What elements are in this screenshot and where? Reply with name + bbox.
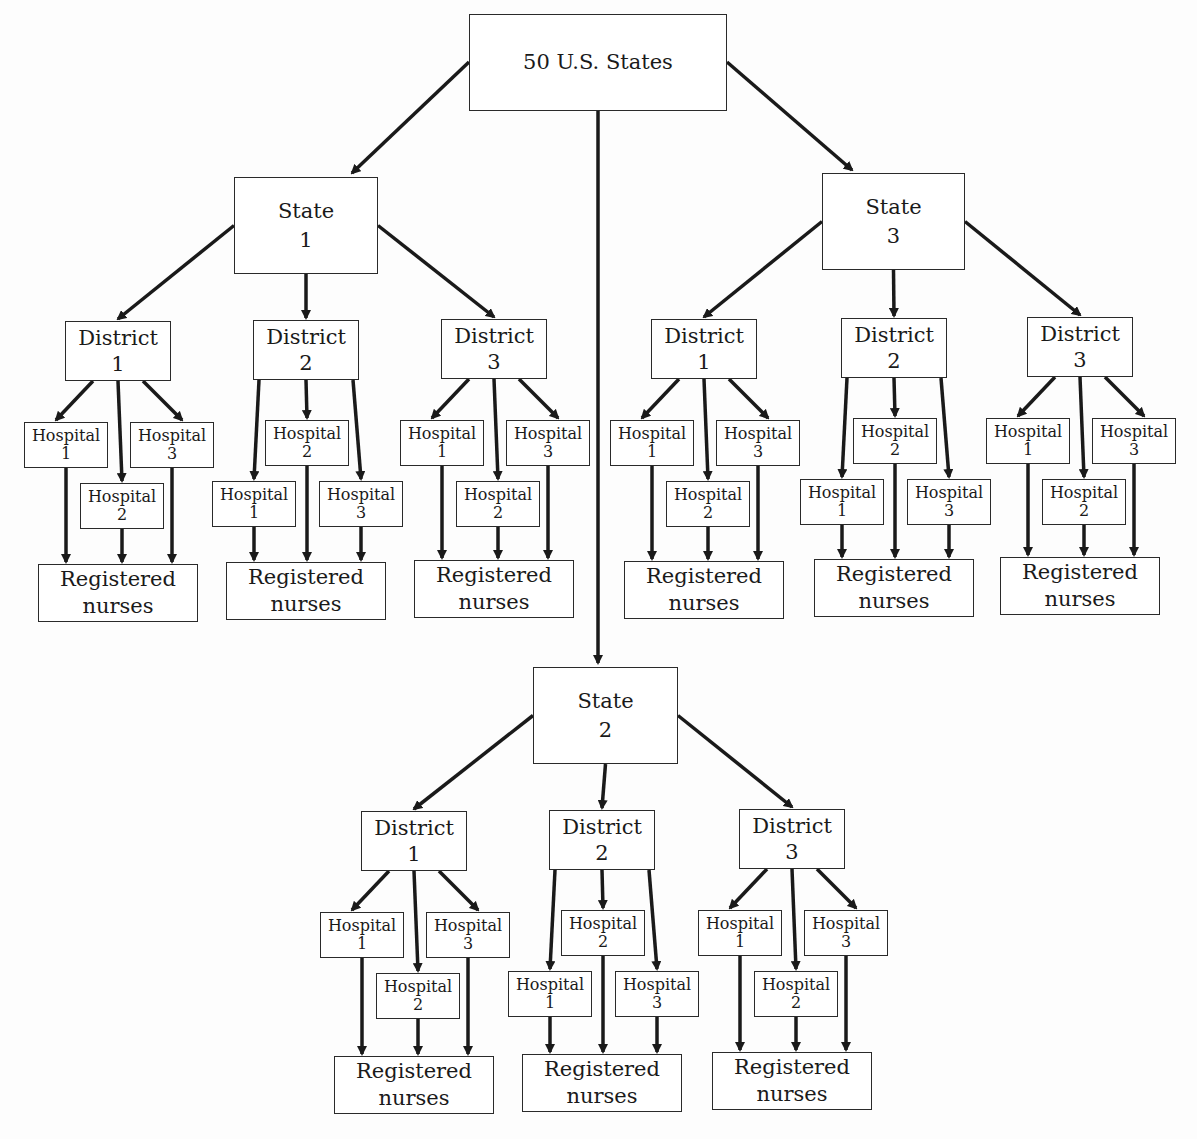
- arrow-connector: [817, 869, 856, 908]
- arrow-connector: [414, 871, 418, 971]
- arrow-connector: [1080, 377, 1084, 477]
- state-3-district-3-registered-nurses-node: Registerednurses: [1000, 557, 1160, 615]
- state-1-district-1-hospital-2-node-line-2: 2: [117, 506, 127, 524]
- state-2-district-1-node-line-2: 1: [407, 841, 420, 867]
- state-2-district-1-registered-nurses-node-line-2: nurses: [378, 1085, 449, 1112]
- state-1-district-3-registered-nurses-node: Registerednurses: [414, 560, 574, 618]
- state-2-district-2-registered-nurses-node: Registerednurses: [522, 1054, 682, 1112]
- arrow-connector: [894, 378, 895, 416]
- state-2-district-3-hospital-2-node-line-1: Hospital: [762, 976, 830, 994]
- arrow-connector: [730, 869, 767, 908]
- state-3-district-1-node-line-1: District: [664, 323, 744, 349]
- state-2-district-2-hospital-1-node-line-1: Hospital: [516, 976, 584, 994]
- state-3-district-1-hospital-1-node: Hospital1: [610, 420, 694, 466]
- arrow-connector: [494, 379, 498, 479]
- state-1-district-3-node: District3: [441, 319, 547, 379]
- state-3-district-3-hospital-1-node-line-1: Hospital: [994, 423, 1062, 441]
- state-3-district-2-hospital-1-node-line-1: Hospital: [808, 484, 876, 502]
- state-3-district-2-registered-nurses-node-line-2: nurses: [858, 588, 929, 615]
- arrow-connector: [352, 871, 389, 910]
- root-node-50-us-states: 50 U.S. States: [469, 14, 727, 111]
- state-2-district-2-node-line-2: 2: [595, 840, 608, 866]
- state-3-district-2-registered-nurses-node: Registerednurses: [814, 559, 974, 617]
- state-1-district-2-hospital-3-node-line-1: Hospital: [327, 486, 395, 504]
- state-1-district-2-registered-nurses-node-line-1: Registered: [248, 564, 364, 591]
- arrow-connector: [704, 222, 822, 318]
- state-2-district-3-node-line-1: District: [752, 813, 832, 839]
- state-2-node-line-2: 2: [599, 716, 612, 744]
- state-2-district-2-node: District2: [549, 810, 655, 870]
- arrow-connector: [894, 270, 895, 316]
- state-3-district-1-node-line-2: 1: [697, 349, 710, 375]
- state-1-district-1-hospital-3-node: Hospital3: [130, 422, 214, 468]
- arrow-connector: [519, 379, 558, 418]
- arrow-connector: [727, 62, 852, 170]
- state-1-district-1-registered-nurses-node-line-1: Registered: [60, 566, 176, 593]
- state-3-district-1-hospital-2-node-line-2: 2: [703, 504, 713, 522]
- arrow-connector: [729, 379, 768, 418]
- state-3-district-1-hospital-3-node: Hospital3: [716, 420, 800, 466]
- arrow-connector: [306, 380, 307, 418]
- arrow-connector: [56, 381, 93, 420]
- state-3-node-line-1: State: [865, 193, 921, 221]
- state-1-district-2-node: District2: [253, 320, 359, 380]
- state-3-district-1-registered-nurses-node-line-1: Registered: [646, 563, 762, 590]
- state-3-district-1-registered-nurses-node-line-2: nurses: [668, 590, 739, 617]
- arrow-connector: [704, 379, 708, 479]
- state-3-district-2-node-line-2: 2: [887, 348, 900, 374]
- state-2-node-line-1: State: [577, 687, 633, 715]
- state-1-district-3-hospital-2-node-line-2: 2: [493, 504, 503, 522]
- arrow-connector: [1105, 377, 1144, 416]
- state-3-district-2-hospital-1-node: Hospital1: [800, 479, 884, 525]
- state-1-district-1-node: District1: [65, 321, 171, 381]
- state-2-district-1-hospital-3-node-line-1: Hospital: [434, 917, 502, 935]
- state-1-district-2-hospital-1-node-line-2: 1: [249, 504, 259, 522]
- arrow-connector: [602, 764, 606, 808]
- state-3-district-1-node: District1: [651, 319, 757, 379]
- state-1-district-2-hospital-2-node-line-1: Hospital: [273, 425, 341, 443]
- state-3-district-3-node: District3: [1027, 317, 1133, 377]
- state-3-district-2-hospital-3-node-line-1: Hospital: [915, 484, 983, 502]
- state-1-district-3-hospital-2-node-line-1: Hospital: [464, 486, 532, 504]
- state-3-district-3-hospital-3-node-line-1: Hospital: [1100, 423, 1168, 441]
- state-2-district-2-hospital-2-node: Hospital2: [561, 910, 645, 956]
- state-3-district-1-hospital-2-node: Hospital2: [666, 481, 750, 527]
- state-3-district-2-hospital-3-node: Hospital3: [907, 479, 991, 525]
- state-2-district-2-hospital-1-node-line-2: 1: [545, 994, 555, 1012]
- arrow-connector: [353, 380, 361, 479]
- arrow-connector: [143, 381, 182, 420]
- sampling-hierarchy-diagram: 50 U.S. States State1District1Registered…: [0, 0, 1197, 1139]
- state-2-district-2-registered-nurses-node-line-1: Registered: [544, 1056, 660, 1083]
- state-1-district-3-hospital-2-node: Hospital2: [456, 481, 540, 527]
- state-2-district-2-hospital-1-node: Hospital1: [508, 971, 592, 1017]
- state-3-district-1-hospital-1-node-line-1: Hospital: [618, 425, 686, 443]
- state-1-district-1-hospital-3-node-line-1: Hospital: [138, 427, 206, 445]
- state-2-district-3-hospital-2-node-line-2: 2: [791, 994, 801, 1012]
- state-1-district-3-hospital-1-node: Hospital1: [400, 420, 484, 466]
- state-2-district-2-hospital-3-node: Hospital3: [615, 971, 699, 1017]
- state-2-district-1-hospital-2-node-line-1: Hospital: [384, 978, 452, 996]
- arrow-connector: [352, 62, 469, 173]
- state-3-district-3-registered-nurses-node-line-1: Registered: [1022, 559, 1138, 586]
- state-3-district-3-hospital-2-node-line-2: 2: [1079, 502, 1089, 520]
- state-2-district-1-registered-nurses-node: Registerednurses: [334, 1056, 494, 1114]
- arrow-connector: [649, 870, 657, 969]
- state-1-district-3-node-line-2: 3: [487, 349, 500, 375]
- state-3-node: State3: [822, 173, 965, 270]
- state-1-district-3-registered-nurses-node-line-1: Registered: [436, 562, 552, 589]
- state-1-district-1-registered-nurses-node: Registerednurses: [38, 564, 198, 622]
- state-2-district-3-hospital-3-node-line-1: Hospital: [812, 915, 880, 933]
- state-2-district-1-hospital-1-node-line-1: Hospital: [328, 917, 396, 935]
- state-1-district-2-node-line-1: District: [266, 324, 346, 350]
- state-2-district-2-hospital-3-node-line-1: Hospital: [623, 976, 691, 994]
- state-3-district-1-hospital-1-node-line-2: 1: [647, 443, 657, 461]
- state-1-district-1-hospital-1-node: Hospital1: [24, 422, 108, 468]
- state-3-district-2-node-line-1: District: [854, 322, 934, 348]
- state-2-district-3-registered-nurses-node-line-2: nurses: [756, 1081, 827, 1108]
- state-1-district-3-node-line-1: District: [454, 323, 534, 349]
- state-2-district-1-hospital-1-node: Hospital1: [320, 912, 404, 958]
- state-2-district-1-hospital-2-node-line-2: 2: [413, 996, 423, 1014]
- state-3-district-3-registered-nurses-node-line-2: nurses: [1044, 586, 1115, 613]
- state-2-district-3-hospital-3-node-line-2: 3: [841, 933, 851, 951]
- state-1-district-3-hospital-3-node: Hospital3: [506, 420, 590, 466]
